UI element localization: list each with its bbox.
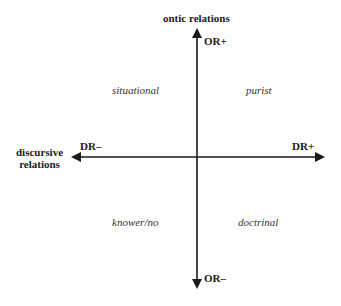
quadrant-knower-no: knower/no <box>112 217 158 228</box>
arrow-down-icon <box>192 279 202 289</box>
arrow-right-icon <box>315 152 325 162</box>
dr-plus-label: DR+ <box>292 141 314 152</box>
dr-minus-label: DR– <box>80 141 101 152</box>
arrow-up-icon <box>192 28 202 38</box>
arrow-left-icon <box>71 152 81 162</box>
vertical-axis-title: ontic relations <box>163 13 230 24</box>
horizontal-axis-title-line2: relations <box>16 158 63 170</box>
quadrant-situational: situational <box>112 85 159 96</box>
horizontal-axis-title: discursive relations <box>16 146 63 170</box>
horizontal-axis-title-line1: discursive <box>16 146 63 158</box>
or-plus-label: OR+ <box>204 36 227 47</box>
quadrant-purist: purist <box>246 85 272 96</box>
or-minus-label: OR– <box>204 273 226 284</box>
quadrant-doctrinal: doctrinal <box>238 217 278 228</box>
